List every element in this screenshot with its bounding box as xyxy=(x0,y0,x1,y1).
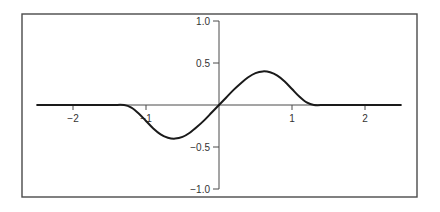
y-tick-label: 1.0 xyxy=(196,16,210,27)
x-tick-label: −2 xyxy=(67,113,79,124)
x-tick-label: 2 xyxy=(362,113,368,124)
y-tick-label: −1.0 xyxy=(190,184,210,195)
y-tick-label: 0.5 xyxy=(196,58,210,69)
line-chart: −2−112 1.00.5−0.5−1.0 xyxy=(0,0,440,212)
y-tick-label: −0.5 xyxy=(190,142,210,153)
x-tick-label: 1 xyxy=(289,113,295,124)
